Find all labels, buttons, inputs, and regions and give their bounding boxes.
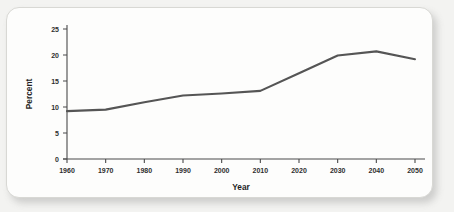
- x-axis-tick-group: 1960197019801990200020102020203020402050: [59, 159, 423, 174]
- x-axis-tick-label: 1980: [137, 167, 153, 174]
- x-axis-tick-label: 2010: [253, 167, 269, 174]
- x-axis-tick-label: 2000: [214, 167, 230, 174]
- x-axis-tick-label: 2040: [369, 167, 385, 174]
- chart-canvas: 0510152025 19601970198019902000201020202…: [7, 8, 432, 197]
- screenshot-page: 0510152025 19601970198019902000201020202…: [0, 0, 454, 212]
- percent-series-line: [67, 51, 415, 111]
- y-axis-tick-label: 10: [51, 104, 59, 111]
- y-axis-title: Percent: [24, 79, 34, 110]
- y-axis-tick-label: 0: [55, 156, 59, 163]
- x-axis-tick-label: 1970: [98, 167, 114, 174]
- x-axis-tick-label: 1990: [175, 167, 191, 174]
- x-axis-tick-label: 2030: [330, 167, 346, 174]
- y-axis-tick-label: 15: [51, 78, 59, 85]
- y-axis-tick-label: 20: [51, 52, 59, 59]
- line-chart: 0510152025 19601970198019902000201020202…: [7, 8, 432, 197]
- x-axis-title: Year: [232, 182, 250, 192]
- chart-card: 0510152025 19601970198019902000201020202…: [6, 7, 433, 198]
- y-axis-tick-label: 5: [55, 130, 59, 137]
- x-axis-tick-label: 1960: [59, 167, 75, 174]
- y-axis-tick-group: 0510152025: [51, 26, 67, 163]
- y-axis-tick-label: 25: [51, 26, 59, 33]
- x-axis-tick-label: 2050: [407, 167, 423, 174]
- x-axis-tick-label: 2020: [291, 167, 307, 174]
